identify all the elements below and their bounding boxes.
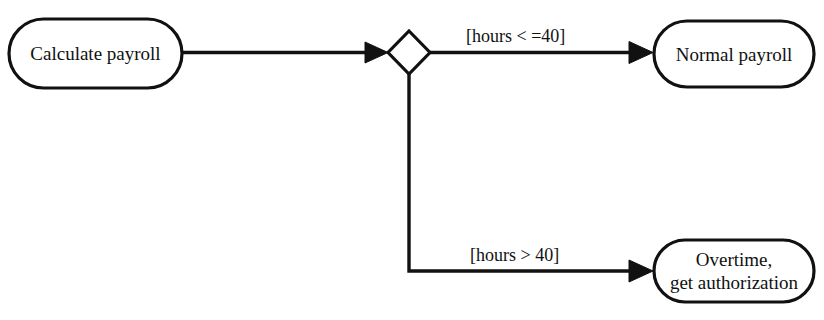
arrowhead-to-normal-payroll bbox=[629, 42, 653, 64]
diagram-canvas bbox=[0, 0, 824, 320]
uml-activity-diagram: Calculate payroll Normal payroll Overtim… bbox=[0, 0, 824, 320]
arrowhead-to-overtime bbox=[629, 260, 653, 282]
node-decision-diamond bbox=[388, 31, 430, 74]
guard-label-hours-gt-40: [hours > 40] bbox=[470, 245, 559, 266]
edge-decision-to-overtime bbox=[409, 74, 638, 271]
node-calculate-payroll bbox=[9, 19, 182, 88]
guard-label-hours-lte-40: [hours < =40] bbox=[466, 26, 565, 47]
node-normal-payroll bbox=[654, 21, 814, 87]
arrowhead-to-decision bbox=[365, 42, 388, 63]
node-overtime bbox=[654, 240, 814, 302]
